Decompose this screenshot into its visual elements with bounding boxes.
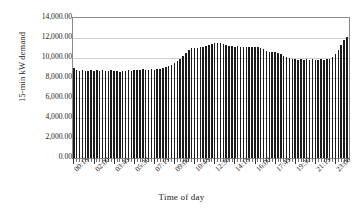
x-tick-label: 05:30 [133,155,151,173]
x-tick-label: 03:45 [113,155,131,173]
x-tick-label: 02:00 [93,155,111,173]
x-tick-label: 16:00 [254,155,272,173]
x-tick-label: 10:45 [193,155,211,173]
x-tick-label: 23:00 [334,155,352,173]
x-tick-label: 12:30 [213,155,231,173]
x-tick-label: 07:15 [153,155,171,173]
x-tick-label: 21:15 [314,155,332,173]
x-axis-tick-labels: 00:1502:0003:4505:3007:1509:0010:4512:30… [0,0,363,211]
x-tick-label: 14:15 [233,155,251,173]
x-axis-title: Time of day [0,192,363,202]
x-tick-label: 09:00 [173,155,191,173]
chart-figure: 15-min kW demand 14,000.0012,000.0010,00… [0,0,363,211]
x-tick-label: 19:30 [294,155,312,173]
x-tick-label: 00:15 [72,155,90,173]
x-tick-label: 17:45 [274,155,292,173]
